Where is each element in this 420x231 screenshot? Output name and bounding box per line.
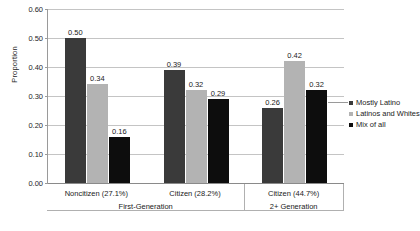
y-axis-tick — [45, 183, 48, 184]
bar-value-label: 0.50 — [68, 28, 83, 37]
plot-area: 0.500.340.160.390.320.290.260.420.32 — [47, 9, 343, 183]
y-axis-tick-labels: 0.000.100.200.300.400.500.60 — [9, 0, 43, 231]
y-axis-tick-label: 0.50 — [9, 34, 43, 43]
legend-item-label: Mostly Latino — [356, 98, 400, 107]
bar-value-label: 0.42 — [287, 51, 302, 60]
group-separator-right — [343, 184, 344, 211]
gridline — [48, 38, 344, 39]
bar — [109, 137, 130, 183]
bar-value-label: 0.32 — [189, 80, 204, 89]
y-axis-tick — [45, 125, 48, 126]
y-axis-tick-label: 0.10 — [9, 150, 43, 159]
x-axis-baseline — [48, 183, 344, 184]
bar — [306, 90, 327, 183]
y-axis-tick-label: 0.40 — [9, 63, 43, 72]
bar — [65, 38, 86, 183]
bar-value-label: 0.32 — [309, 80, 324, 89]
bar-value-label: 0.39 — [167, 60, 182, 69]
legend-item[interactable]: Latinos and Whites — [349, 108, 420, 119]
y-axis-tick-label: 0.00 — [9, 179, 43, 188]
bar — [87, 84, 108, 183]
y-axis-tick — [45, 67, 48, 68]
y-axis-tick — [45, 96, 48, 97]
bar-value-label: 0.29 — [211, 89, 226, 98]
x-axis-group-label: First-Generation — [119, 202, 173, 211]
legend-item[interactable]: Mostly Latino — [349, 97, 420, 108]
legend-item[interactable]: Mix of all — [349, 119, 420, 130]
legend-leader-line — [328, 102, 348, 103]
y-axis-tick — [45, 9, 48, 10]
legend-swatch-icon — [349, 123, 353, 127]
y-axis-tick — [45, 38, 48, 39]
x-axis-group-label: 2+ Generation — [270, 202, 318, 211]
bar-value-label: 0.34 — [90, 74, 105, 83]
y-axis-tick-label: 0.20 — [9, 121, 43, 130]
y-axis-tick-label: 0.60 — [9, 5, 43, 14]
x-axis-category-label: Citizen (28.2%) — [169, 189, 220, 198]
bar-value-label: 0.26 — [265, 98, 280, 107]
y-axis-tick-label: 0.30 — [9, 92, 43, 101]
legend-swatch-icon — [349, 112, 353, 116]
x-axis-category-label: Noncitizen (27.1%) — [65, 189, 128, 198]
y-axis-tick — [45, 154, 48, 155]
bar — [208, 99, 229, 183]
gridline — [48, 9, 344, 10]
chart-legend: Mostly LatinoLatinos and WhitesMix of al… — [349, 97, 420, 130]
group-separator — [244, 184, 245, 211]
legend-item-label: Mix of all — [356, 120, 386, 129]
legend-item-label: Latinos and Whites — [356, 109, 420, 118]
x-axis-category-label: Citizen (44.7%) — [268, 189, 319, 198]
legend-swatch-icon — [349, 101, 353, 105]
bar-value-label: 0.16 — [112, 127, 127, 136]
bar — [186, 90, 207, 183]
bar — [262, 108, 283, 183]
bar — [284, 61, 305, 183]
bar — [164, 70, 185, 183]
